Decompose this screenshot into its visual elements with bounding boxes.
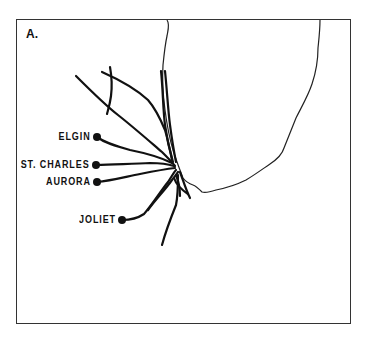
city-dot bbox=[93, 178, 101, 186]
city-label-elgin: ELGIN bbox=[59, 131, 91, 142]
city-label-aurora: AURORA bbox=[46, 176, 91, 187]
city-dot bbox=[93, 133, 101, 141]
shoreline bbox=[163, 20, 320, 192]
city-label-joliet: JOLIET bbox=[79, 214, 116, 225]
city-dot bbox=[92, 161, 100, 169]
city-label-st-charles: ST. CHARLES bbox=[21, 159, 90, 170]
map-drawing bbox=[0, 0, 369, 342]
city-dot bbox=[118, 216, 126, 224]
